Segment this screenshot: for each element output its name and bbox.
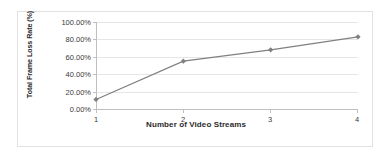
y-tick-label-40: 40.00% (66, 70, 91, 79)
x-tick-mark-4 (357, 110, 358, 113)
y-axis-title: Total Frame Loss Rate (%) (25, 0, 34, 110)
x-tick-mark-3 (270, 110, 271, 113)
plot-area: 100.00% 80.00% 60.00% 40.00% 20.00% 0.00… (96, 22, 358, 109)
data-point-1 (93, 97, 98, 102)
data-point-4 (355, 34, 360, 39)
data-series-line (96, 22, 358, 109)
data-point-2 (181, 59, 186, 64)
x-axis-line (96, 109, 358, 110)
data-point-3 (268, 47, 273, 52)
series-polyline (96, 37, 358, 100)
x-axis-title: Number of Video Streams (18, 120, 374, 129)
y-tick-label-100: 100.00% (61, 18, 91, 27)
y-tick-label-20: 20.00% (66, 88, 91, 97)
x-tick-mark-1 (96, 110, 97, 113)
y-tick-label-60: 60.00% (66, 53, 91, 62)
x-tick-mark-2 (183, 110, 184, 113)
y-tick-label-0: 0.00% (70, 105, 91, 114)
chart-container: Total Frame Loss Rate (%) 100.00% 80.00%… (17, 11, 373, 147)
y-tick-label-80: 80.00% (66, 35, 91, 44)
series-markers (93, 34, 360, 102)
